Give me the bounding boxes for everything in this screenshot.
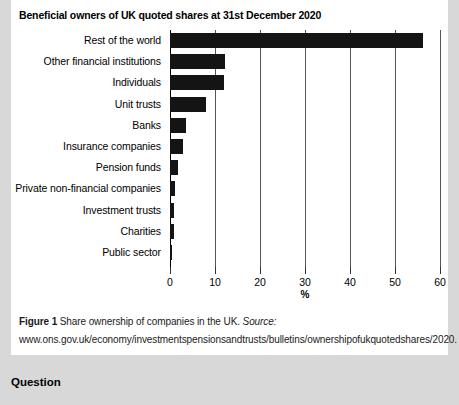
plot-area	[170, 30, 440, 267]
x-tick-mark	[260, 267, 261, 274]
gridline-40	[350, 30, 351, 267]
category-label: Public sector	[102, 242, 161, 263]
chart-title: Beneficial owners of UK quoted shares at…	[19, 9, 321, 21]
figure-caption-source-label: Source:	[243, 316, 277, 327]
gridline-50	[395, 30, 396, 267]
bar	[170, 181, 175, 196]
category-label: Charities	[120, 221, 161, 242]
x-tick-label: 40	[344, 276, 356, 288]
figure-caption-text: Share ownership of companies in the UK.	[57, 316, 242, 327]
x-tick-label: 0	[167, 276, 173, 288]
x-tick-mark	[395, 267, 396, 274]
category-label: Other financial institutions	[44, 51, 161, 72]
bar	[170, 245, 172, 260]
bar-chart: Rest of the worldOther financial institu…	[11, 30, 448, 298]
x-axis-title: %	[301, 289, 310, 300]
bar	[170, 118, 186, 133]
gridline-60	[440, 30, 441, 267]
category-label: Unit trusts	[115, 94, 161, 115]
bar	[170, 54, 225, 69]
category-label: Pension funds	[96, 157, 161, 178]
x-tick-mark	[350, 267, 351, 274]
x-tick-label: 10	[209, 276, 221, 288]
category-label: Private non-financial companies	[15, 178, 161, 199]
category-label: Individuals	[112, 72, 161, 93]
x-tick-label: 20	[254, 276, 266, 288]
figure-caption-source-url: www.ons.gov.uk/economy/investmentspensio…	[19, 334, 457, 345]
bar	[170, 224, 174, 239]
bar	[170, 75, 224, 90]
gridline-30	[305, 30, 306, 267]
bar	[170, 203, 174, 218]
category-label: Banks	[132, 115, 161, 136]
figure-caption-label: Figure 1	[19, 316, 57, 327]
figure-caption: Figure 1 Share ownership of companies in…	[19, 313, 437, 349]
category-label: Rest of the world	[84, 30, 161, 51]
x-tick-label: 60	[434, 276, 446, 288]
question-heading: Question	[11, 376, 61, 388]
gridline-20	[260, 30, 261, 267]
x-tick-mark	[440, 267, 441, 274]
bar	[170, 33, 423, 48]
category-label: Investment trusts	[83, 200, 161, 221]
x-tick-label: 30	[299, 276, 311, 288]
category-axis-labels: Rest of the worldOther financial institu…	[11, 30, 166, 267]
x-axis: % 0102030405060	[170, 267, 440, 298]
bar	[170, 139, 183, 154]
bar	[170, 160, 178, 175]
x-tick-mark	[215, 267, 216, 274]
x-tick-mark	[305, 267, 306, 274]
x-tick-label: 50	[389, 276, 401, 288]
category-label: Insurance companies	[63, 136, 161, 157]
x-tick-mark	[170, 267, 171, 274]
bar	[170, 97, 206, 112]
figure-card: Beneficial owners of UK quoted shares at…	[11, 0, 448, 355]
